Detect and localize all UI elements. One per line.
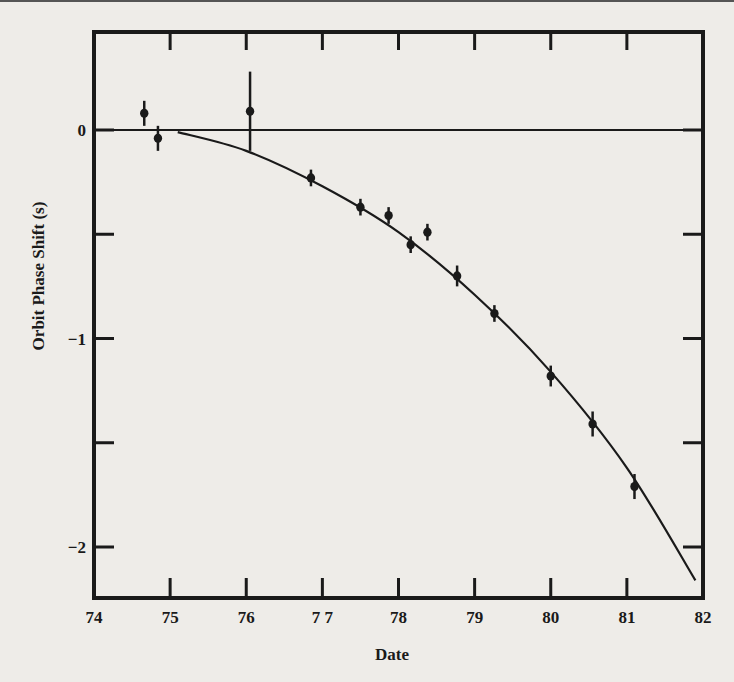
- y-tick-labels: 0−1−2: [68, 121, 86, 557]
- point-marker: [140, 109, 148, 118]
- y-tick-label: −1: [68, 330, 86, 349]
- data-point: [356, 199, 364, 216]
- point-marker: [154, 134, 162, 143]
- data-point: [140, 101, 148, 126]
- point-marker: [453, 271, 461, 280]
- x-tick-label: 81: [618, 608, 635, 627]
- point-marker: [307, 173, 315, 182]
- point-marker: [246, 107, 254, 116]
- point-marker: [588, 419, 596, 428]
- axis-ticks: [94, 32, 703, 598]
- x-axis-title: Date: [375, 645, 409, 664]
- data-point: [588, 411, 596, 436]
- point-marker: [547, 371, 555, 380]
- x-tick-label: 75: [162, 608, 179, 627]
- point-marker: [490, 309, 498, 318]
- data-point: [423, 224, 431, 241]
- data-point: [384, 207, 392, 224]
- data-point: [630, 474, 638, 499]
- point-marker: [630, 482, 638, 491]
- orbit-phase-shift-chart: 7475767 77879808182 0−1−2 Date Orbit Pha…: [0, 0, 734, 682]
- x-tick-label: 82: [695, 608, 712, 627]
- y-tick-label: 0: [78, 121, 87, 140]
- fit-curve-path: [178, 132, 696, 580]
- x-tick-label: 80: [542, 608, 559, 627]
- data-point: [490, 305, 498, 322]
- data-point: [246, 72, 254, 151]
- x-tick-label: 74: [86, 608, 104, 627]
- data-points: [140, 72, 639, 499]
- x-tick-label: 78: [390, 608, 407, 627]
- data-point: [307, 170, 315, 187]
- data-point: [453, 266, 461, 287]
- point-marker: [384, 211, 392, 220]
- x-tick-label: 7 7: [312, 608, 334, 627]
- fit-curve: [178, 132, 696, 580]
- x-tick-label: 79: [466, 608, 483, 627]
- y-tick-label: −2: [68, 538, 86, 557]
- point-marker: [356, 203, 364, 212]
- y-axis-title: Orbit Phase Shift (s): [29, 202, 48, 351]
- x-tick-label: 76: [238, 608, 255, 627]
- point-marker: [423, 228, 431, 237]
- plot-frame: [94, 32, 703, 598]
- point-marker: [406, 240, 414, 249]
- x-tick-labels: 7475767 77879808182: [86, 608, 712, 627]
